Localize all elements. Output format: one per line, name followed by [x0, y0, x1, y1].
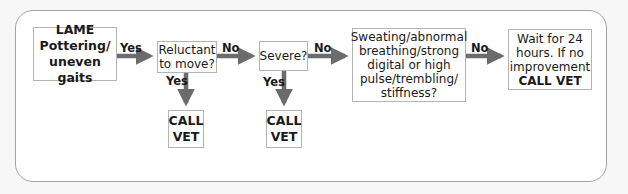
node-call-vet-2: CALL VET [266, 110, 302, 148]
node-line: CALL [267, 113, 302, 128]
edge-label-no: No [222, 42, 240, 54]
node-call-vet-1: CALL VET [168, 110, 204, 148]
node-line: improvement [510, 60, 591, 74]
node-line: Pottering/ [39, 38, 110, 53]
node-line: VET [271, 129, 298, 144]
node-line-emphasis: CALL VET [518, 74, 581, 88]
node-line: CALL [169, 113, 204, 128]
node-line: Wait for 24 [517, 32, 583, 46]
edge-label-yes: Yes [263, 76, 285, 88]
node-line: to move? [159, 57, 215, 71]
node-line: uneven gaits [49, 54, 101, 85]
node-symptoms: Sweating/abnormal breathing/strong digit… [352, 28, 466, 102]
node-line: pulse/trembling/ [360, 72, 458, 86]
edge-label-no: No [471, 42, 489, 54]
node-line: digital or high [367, 58, 450, 72]
node-line: VET [173, 129, 200, 144]
edge-label-yes: Yes [120, 42, 142, 54]
node-line: Sweating/abnormal [351, 30, 468, 44]
node-wait-24-hours: Wait for 24 hours. If no improvement CAL… [508, 29, 592, 90]
edge-label-yes: Yes [166, 75, 188, 87]
node-reluctant-to-move: Reluctant to move? [157, 41, 217, 73]
node-severe: Severe? [259, 41, 308, 71]
node-line: hours. If no [516, 46, 584, 60]
node-line: LAME [56, 22, 95, 37]
node-line: Reluctant [158, 43, 215, 57]
node-line: stiffness? [381, 86, 437, 100]
edge-label-no: No [314, 42, 332, 54]
node-lame-start: LAME Pottering/ uneven gaits [33, 27, 117, 81]
node-line: Severe? [260, 49, 308, 63]
node-line: breathing/strong [359, 44, 459, 58]
